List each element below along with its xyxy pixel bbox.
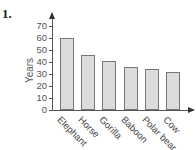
y-tick-label: 10 [29,93,47,103]
bar-baboon [124,67,138,110]
y-axis [52,16,53,111]
y-tick [49,110,53,111]
y-tick [49,62,53,63]
bar-chart: Years 010203040506070ElephantHorseGorill… [0,0,196,150]
y-tick [49,74,53,75]
y-tick-label: 60 [29,33,47,43]
y-axis-arrow-icon [49,12,55,19]
y-tick [49,38,53,39]
bar-horse [81,55,95,110]
y-tick [49,98,53,99]
y-tick [49,26,53,27]
bar-gorilla [102,61,116,110]
y-tick-label: 20 [29,81,47,91]
y-tick [49,50,53,51]
y-tick [49,86,53,87]
y-tick-label: 50 [29,45,47,55]
bar-cow [166,72,180,110]
y-tick-label: 0 [29,105,47,115]
x-axis-arrow-icon [188,107,195,113]
bar-polar-bear [145,69,159,110]
x-tick-label: Gorilla [98,114,125,141]
y-tick-label: 30 [29,69,47,79]
y-tick-label: 40 [29,57,47,67]
x-axis [52,110,190,111]
bar-elephant [60,38,74,110]
y-tick-label: 70 [29,21,47,31]
